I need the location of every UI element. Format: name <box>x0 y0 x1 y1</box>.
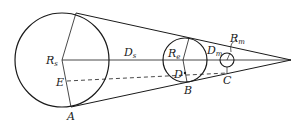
sun-radius-upper <box>62 13 76 60</box>
label-Rm: Rm <box>229 32 245 46</box>
label-Ds: Ds <box>123 46 137 60</box>
moon-radius-line <box>227 53 230 60</box>
earth-radius-upper <box>183 38 189 60</box>
dashed-line-E-C <box>67 73 227 81</box>
point-D-dot <box>184 72 186 74</box>
label-Dm: Dm <box>206 44 223 58</box>
label-Rs: Rs <box>45 54 58 68</box>
label-C: C <box>223 74 232 87</box>
label-D: D <box>173 68 183 81</box>
label-A: A <box>66 110 75 123</box>
eclipse-diagram: Rs Ds Re Dm Rm E D A B C <box>0 0 306 124</box>
label-E: E <box>55 76 64 89</box>
label-Re: Re <box>167 47 180 61</box>
earth-radius-lower <box>183 60 187 82</box>
label-B: B <box>183 84 192 97</box>
